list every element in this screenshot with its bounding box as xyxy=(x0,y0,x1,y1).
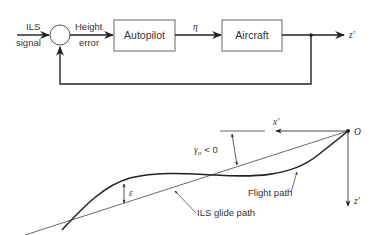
x-axis-label: x' xyxy=(272,117,280,127)
glide-path-label: ILS glide path xyxy=(197,207,255,218)
input-label-ils: ILS xyxy=(26,21,40,32)
glide-path-leader xyxy=(175,191,196,213)
output-label: z' xyxy=(348,30,356,40)
flight-path-label: Flight path xyxy=(248,187,292,198)
gamma-subscript: o xyxy=(198,149,202,157)
epsilon-label: ε xyxy=(129,188,133,198)
z-axis-label: z' xyxy=(353,196,361,206)
height-error-label-line2: error xyxy=(79,37,99,48)
aircraft-label: Aircraft xyxy=(235,29,268,41)
glide-path-geometry: x' z' O γo< 0 ε Flight path ILS glide pa… xyxy=(25,117,361,235)
origin-label: O xyxy=(354,127,361,137)
ils-glide-path xyxy=(25,131,348,235)
autopilot-label: Autopilot xyxy=(124,29,165,41)
gamma-angle-label: γo< 0 xyxy=(194,144,218,157)
gamma-relation: < 0 xyxy=(204,144,217,155)
height-error-label-line1: Height xyxy=(75,21,103,32)
block-diagram: ILS signal Height error Autopilot η Airc… xyxy=(16,20,356,84)
eta-label: η xyxy=(193,22,198,32)
ils-autopilot-diagram: ILS signal Height error Autopilot η Airc… xyxy=(0,0,375,235)
gamma-angle-arrow xyxy=(232,134,237,165)
input-label-signal: signal xyxy=(16,37,41,48)
summing-junction xyxy=(50,25,70,45)
